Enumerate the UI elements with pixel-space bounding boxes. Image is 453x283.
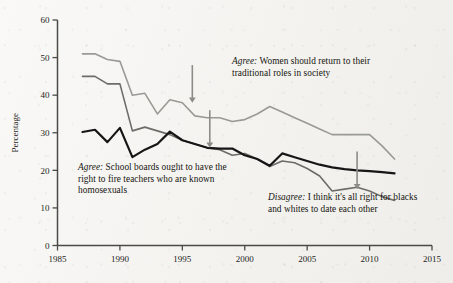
x-axis-tick-label: 2000	[236, 254, 255, 264]
axes	[53, 20, 433, 251]
x-axis-tick-label: 2010	[361, 254, 380, 264]
x-axis-tick-label: 1995	[173, 254, 192, 264]
annotation-women-roles: Agree: Women should return to their trad…	[232, 56, 377, 79]
x-axis-tick-label: 2005	[298, 254, 317, 264]
annotation-school-boards-emphasis: Agree:	[78, 162, 103, 172]
arrow-head-women	[189, 97, 196, 102]
chart-page: 0102030405060198519901995200020052010201…	[0, 0, 453, 283]
y-axis-tick-label: 20	[41, 166, 51, 176]
annotation-women-roles-emphasis: Agree:	[232, 56, 257, 66]
y-axis-tick-label: 0	[45, 241, 50, 251]
axis-labels: 0102030405060198519901995200020052010201…	[10, 15, 442, 263]
y-axis-tick-label: 10	[41, 203, 51, 213]
annotation-school-boards: Agree: School boards ought to have the r…	[78, 162, 228, 197]
y-axis-title: Percentage	[10, 113, 20, 152]
y-axis-tick-label: 30	[41, 128, 51, 138]
y-axis-tick-label: 60	[41, 15, 51, 25]
y-axis-tick-label: 50	[41, 53, 51, 63]
arrow-school	[206, 110, 213, 148]
arrow-women	[189, 65, 196, 103]
x-axis-tick-label: 2015	[423, 254, 442, 264]
annotation-interracial-dating-emphasis: Disagree:	[268, 192, 305, 202]
line-chart: 0102030405060198519901995200020052010201…	[0, 0, 453, 283]
y-axis-tick-label: 40	[41, 90, 51, 100]
x-axis-tick-label: 1990	[111, 254, 130, 264]
annotation-interracial-dating: Disagree: I think it's all right for bla…	[268, 192, 433, 215]
x-axis-tick-label: 1985	[49, 254, 68, 264]
